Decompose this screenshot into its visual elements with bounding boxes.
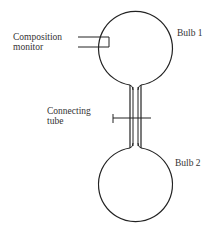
bulb-1 [99, 11, 173, 85]
composition-monitor-label-2: monitor [13, 42, 43, 52]
tube-pointer [113, 114, 151, 123]
composition-monitor-probe [78, 37, 109, 47]
connecting-tube-label-2: tube [47, 116, 63, 126]
bulb-2-label: Bulb 2 [175, 158, 201, 168]
bulb-1-label: Bulb 1 [177, 28, 203, 38]
connecting-tube [130, 85, 141, 148]
connecting-tube-label-1: Connecting [47, 106, 91, 116]
composition-monitor-label-1: Composition [13, 32, 62, 42]
bulb-2 [99, 148, 173, 222]
